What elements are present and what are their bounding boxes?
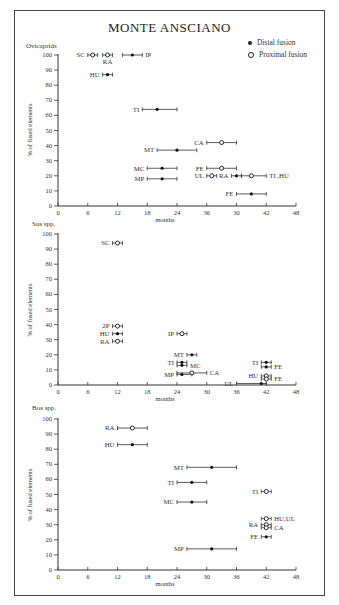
element-label: MP bbox=[174, 545, 184, 552]
x-axis-label: months bbox=[155, 395, 175, 402]
element-label: SC bbox=[76, 51, 85, 58]
x-tick-label: 48 bbox=[293, 573, 300, 580]
y-tick-label: 10 bbox=[46, 366, 53, 373]
proximal-fusion-point bbox=[210, 174, 214, 178]
distal-fusion-point bbox=[180, 364, 183, 367]
fusion-charts: Ovicaprids010203040506070809010006121824… bbox=[0, 0, 339, 605]
y-tick-label: 40 bbox=[46, 142, 53, 149]
x-tick-label: 24 bbox=[174, 388, 181, 395]
y-tick-label: 40 bbox=[46, 506, 53, 513]
y-tick-label: 80 bbox=[46, 260, 53, 267]
distal-fusion-point bbox=[250, 192, 253, 195]
distal-fusion-point bbox=[210, 547, 213, 550]
distal-fusion-point bbox=[106, 73, 109, 76]
element-label: RA bbox=[100, 338, 110, 345]
element-label: TI bbox=[168, 359, 175, 366]
proximal-fusion-point bbox=[264, 489, 268, 493]
x-tick-label: 42 bbox=[263, 388, 270, 395]
distal-fusion-point bbox=[161, 177, 164, 180]
element-label: FE bbox=[274, 375, 282, 382]
panel-title: Bos spp. bbox=[32, 404, 56, 412]
y-tick-label: 50 bbox=[46, 306, 53, 313]
y-axis-label: % of fused elements bbox=[26, 468, 33, 521]
x-tick-label: 6 bbox=[86, 388, 90, 395]
x-tick-label: 0 bbox=[56, 209, 59, 216]
y-tick-label: 60 bbox=[46, 475, 53, 482]
element-label: MT bbox=[144, 146, 155, 153]
proximal-fusion-point bbox=[116, 339, 120, 343]
element-label: UL bbox=[224, 380, 233, 387]
y-tick-label: 90 bbox=[46, 245, 53, 252]
y-tick-label: 70 bbox=[46, 460, 53, 467]
proximal-fusion-point bbox=[91, 53, 95, 57]
element-label: MT bbox=[174, 464, 185, 471]
y-axis-label: % of fused elements bbox=[26, 283, 33, 336]
element-label: MC bbox=[163, 498, 174, 505]
x-tick-label: 36 bbox=[233, 388, 240, 395]
proximal-fusion-point bbox=[116, 324, 120, 328]
distal-fusion-point bbox=[131, 443, 134, 446]
y-tick-label: 30 bbox=[46, 336, 53, 343]
proximal-fusion-point bbox=[264, 377, 268, 381]
element-label: TI ,HU bbox=[269, 172, 289, 179]
element-label: 2P bbox=[102, 322, 109, 329]
distal-fusion-point bbox=[161, 167, 164, 170]
distal-fusion-point bbox=[175, 149, 178, 152]
y-tick-label: 0 bbox=[49, 202, 52, 209]
element-label: MP bbox=[134, 175, 144, 182]
element-label: RA bbox=[103, 58, 113, 65]
x-tick-label: 6 bbox=[86, 209, 90, 216]
element-label: MC bbox=[190, 362, 201, 369]
x-tick-label: 48 bbox=[293, 209, 300, 216]
element-label: UL bbox=[195, 172, 204, 179]
y-tick-label: 90 bbox=[46, 66, 53, 73]
element-label: CA bbox=[194, 139, 204, 146]
distal-fusion-point bbox=[190, 353, 193, 356]
element-label: TI bbox=[168, 479, 175, 486]
distal-fusion-point bbox=[180, 361, 183, 364]
panel-title: Sus spp. bbox=[32, 220, 56, 228]
element-label: IP bbox=[168, 330, 174, 337]
y-tick-label: 50 bbox=[46, 491, 53, 498]
x-tick-label: 6 bbox=[86, 573, 90, 580]
x-tick-label: 42 bbox=[263, 573, 270, 580]
element-label: TI bbox=[133, 106, 140, 113]
element-label: CA bbox=[210, 369, 220, 376]
proximal-fusion-point bbox=[130, 426, 134, 430]
y-tick-label: 20 bbox=[46, 172, 53, 179]
element-label: RA bbox=[249, 521, 259, 528]
x-tick-label: 18 bbox=[144, 573, 151, 580]
element-label: HU bbox=[248, 372, 258, 379]
x-tick-label: 42 bbox=[263, 209, 270, 216]
y-tick-label: 60 bbox=[46, 290, 53, 297]
distal-fusion-point bbox=[265, 365, 268, 368]
y-tick-label: 70 bbox=[46, 96, 53, 103]
element-label: RA bbox=[105, 424, 115, 431]
x-tick-label: 0 bbox=[56, 388, 59, 395]
element-label: FE bbox=[196, 165, 204, 172]
x-tick-label: 18 bbox=[144, 388, 151, 395]
x-tick-label: 18 bbox=[144, 209, 151, 216]
proximal-fusion-point bbox=[106, 53, 110, 57]
element-label: HU,UL bbox=[274, 515, 295, 522]
y-tick-label: 100 bbox=[42, 51, 52, 58]
element-label: TI bbox=[252, 488, 259, 495]
x-tick-label: 0 bbox=[56, 573, 59, 580]
element-label: HU bbox=[105, 441, 115, 448]
element-label: MC bbox=[134, 165, 145, 172]
y-tick-label: 20 bbox=[46, 351, 53, 358]
distal-fusion-point bbox=[156, 108, 159, 111]
distal-fusion-point bbox=[116, 332, 119, 335]
distal-fusion-point bbox=[131, 53, 134, 56]
element-label: IP bbox=[145, 51, 151, 58]
x-tick-label: 12 bbox=[114, 388, 121, 395]
y-tick-label: 10 bbox=[46, 187, 53, 194]
y-tick-label: 80 bbox=[46, 445, 53, 452]
element-label: HU bbox=[90, 71, 100, 78]
x-tick-label: 24 bbox=[174, 573, 181, 580]
x-tick-label: 30 bbox=[204, 573, 211, 580]
element-label: FE bbox=[226, 190, 234, 197]
x-tick-label: 36 bbox=[233, 573, 240, 580]
y-tick-label: 100 bbox=[42, 415, 52, 422]
x-tick-label: 12 bbox=[114, 209, 121, 216]
